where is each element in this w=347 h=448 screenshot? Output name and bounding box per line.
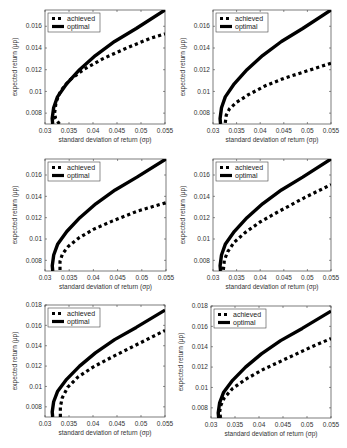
- legend-achieved-label: achieved: [67, 164, 95, 171]
- x-tick-label: 0.035: [228, 274, 245, 281]
- x-tick-label: 0.04: [254, 274, 267, 281]
- x-axis-label: standard deviation of return (σp): [226, 136, 319, 144]
- y-tick-label: 0.012: [194, 66, 211, 73]
- y-axis-label: expected return (μp): [11, 332, 19, 391]
- x-axis-label: standard deviation of return (σp): [59, 136, 152, 144]
- y-tick-label: 0.014: [26, 193, 43, 200]
- x-tick-label: 0.04: [87, 420, 100, 427]
- y-tick-label: 0.008: [192, 404, 209, 411]
- x-tick-label: 0.045: [109, 127, 126, 134]
- y-axis-label: expected return (μp): [179, 38, 187, 97]
- x-tick-label: 0.055: [158, 274, 175, 281]
- legend-achieved-label: achieved: [235, 15, 263, 22]
- x-tick-label: 0.03: [205, 421, 218, 428]
- legend-achieved-label: achieved: [67, 15, 95, 22]
- y-tick-label: 0.018: [192, 302, 209, 309]
- x-tick-label: 0.05: [135, 420, 148, 427]
- legend-achieved-label: achieved: [233, 311, 261, 318]
- x-tick-label: 0.045: [109, 420, 126, 427]
- series-achieved: [60, 203, 166, 270]
- x-tick-label: 0.035: [61, 274, 78, 281]
- chart-panel-top-right: 0.030.0350.040.0450.050.0550.0080.010.01…: [179, 10, 340, 144]
- y-tick-label: 0.012: [26, 66, 43, 73]
- legend-achieved-label: achieved: [235, 164, 263, 171]
- x-tick-label: 0.055: [157, 420, 174, 427]
- x-tick-label: 0.03: [207, 127, 220, 134]
- x-tick-label: 0.04: [87, 127, 100, 134]
- y-axis-label: expected return (μp): [11, 186, 19, 245]
- legend: achievedoptimal: [48, 162, 100, 181]
- legend: achievedoptimal: [216, 13, 268, 32]
- y-tick-label: 0.016: [26, 22, 43, 29]
- x-tick-label: 0.04: [253, 421, 266, 428]
- x-tick-label: 0.03: [39, 420, 52, 427]
- chart-panel-top-left: 0.030.0350.040.0450.050.0550.0080.010.01…: [11, 10, 174, 144]
- y-tick-label: 0.016: [194, 22, 211, 29]
- chart-panel-bottom-left: 0.030.0350.040.0450.050.0550.0080.010.01…: [11, 301, 174, 437]
- x-tick-label: 0.03: [39, 274, 52, 281]
- x-tick-label: 0.03: [207, 274, 220, 281]
- y-tick-label: 0.016: [26, 322, 43, 329]
- x-tick-label: 0.035: [61, 420, 78, 427]
- y-axis-label: expected return (μp): [177, 333, 185, 392]
- y-tick-label: 0.014: [26, 44, 43, 51]
- x-tick-label: 0.05: [301, 421, 314, 428]
- x-tick-label: 0.03: [39, 127, 52, 134]
- chart-panel-bottom-right: 0.030.0350.040.0450.050.0550.0080.010.01…: [177, 302, 340, 438]
- y-tick-label: 0.012: [26, 214, 43, 221]
- x-tick-label: 0.045: [276, 127, 293, 134]
- legend-optimal-label: optimal: [235, 23, 258, 31]
- x-tick-label: 0.035: [228, 127, 245, 134]
- y-tick-label: 0.014: [192, 343, 209, 350]
- x-axis-label: standard deviation of return (σp): [225, 430, 318, 438]
- y-tick-label: 0.012: [192, 363, 209, 370]
- x-tick-label: 0.045: [276, 274, 293, 281]
- y-tick-label: 0.012: [194, 214, 211, 221]
- x-tick-label: 0.05: [301, 127, 314, 134]
- y-tick-label: 0.008: [26, 257, 43, 264]
- y-tick-label: 0.01: [29, 88, 42, 95]
- x-tick-label: 0.055: [157, 127, 174, 134]
- y-tick-label: 0.01: [29, 383, 42, 390]
- y-tick-label: 0.016: [194, 171, 211, 178]
- y-axis-label: expected return (μp): [11, 38, 19, 97]
- x-tick-label: 0.05: [135, 274, 148, 281]
- x-tick-label: 0.04: [87, 274, 100, 281]
- y-axis-label: expected return (μp): [179, 186, 187, 245]
- y-tick-label: 0.008: [194, 257, 211, 264]
- legend: achievedoptimal: [48, 308, 100, 327]
- legend-optimal-label: optimal: [67, 318, 90, 326]
- legend-optimal-label: optimal: [67, 23, 90, 31]
- legend-optimal-label: optimal: [67, 172, 90, 180]
- chart-panel-middle-left: 0.030.0350.040.0450.050.0550.0080.010.01…: [11, 159, 175, 291]
- x-axis-label: standard deviation of return (σp): [59, 429, 152, 437]
- x-tick-label: 0.05: [135, 127, 148, 134]
- x-tick-label: 0.045: [109, 274, 126, 281]
- y-tick-label: 0.014: [194, 44, 211, 51]
- y-tick-label: 0.016: [26, 171, 43, 178]
- legend: achievedoptimal: [214, 309, 266, 328]
- y-tick-label: 0.008: [26, 109, 43, 116]
- y-tick-label: 0.014: [194, 193, 211, 200]
- y-tick-label: 0.008: [194, 109, 211, 116]
- chart-panel-middle-right: 0.030.0350.040.0450.050.0550.0080.010.01…: [179, 159, 340, 291]
- x-tick-label: 0.055: [323, 274, 340, 281]
- x-tick-label: 0.055: [323, 421, 340, 428]
- x-tick-label: 0.04: [254, 127, 267, 134]
- y-tick-label: 0.01: [197, 235, 210, 242]
- y-tick-label: 0.008: [26, 403, 43, 410]
- x-axis-label: standard deviation of return (σp): [226, 283, 319, 291]
- legend-achieved-label: achieved: [67, 310, 95, 317]
- series-achieved: [225, 63, 331, 123]
- y-tick-label: 0.012: [26, 362, 43, 369]
- x-axis-label: standard deviation of return (σp): [59, 283, 152, 291]
- x-tick-label: 0.035: [61, 127, 78, 134]
- y-tick-label: 0.016: [192, 323, 209, 330]
- y-tick-label: 0.01: [197, 88, 210, 95]
- x-tick-label: 0.035: [227, 421, 244, 428]
- legend: achievedoptimal: [48, 13, 100, 32]
- y-tick-label: 0.01: [29, 235, 42, 242]
- x-tick-label: 0.05: [301, 274, 314, 281]
- legend: achievedoptimal: [216, 162, 268, 181]
- y-tick-label: 0.018: [26, 301, 43, 308]
